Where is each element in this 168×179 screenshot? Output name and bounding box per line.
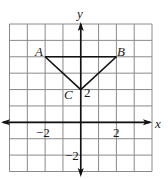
point-label-a: A (34, 44, 43, 59)
coordinate-plane: y x A B C −2 2 2 −2 (0, 0, 168, 179)
point-label-c: C (64, 87, 73, 102)
tick-label-x-2: 2 (113, 125, 120, 140)
tick-label-y-neg2: −2 (65, 148, 79, 163)
y-axis-label: y (75, 6, 83, 21)
x-axis-label: x (154, 116, 161, 131)
tick-label-y-2: 2 (84, 85, 91, 100)
point-label-b: B (117, 44, 125, 59)
tick-label-x-neg2: −2 (36, 125, 50, 140)
